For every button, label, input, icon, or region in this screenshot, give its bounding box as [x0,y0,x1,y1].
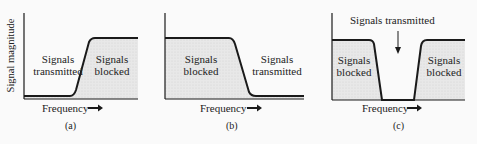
panel-b-frequency-arrow-icon [247,105,262,112]
panel-c-left-region-label: Signals blocked [334,54,374,78]
panel-b-caption: (b) [226,120,238,131]
panel-c-x-axis-label: Frequency [362,102,408,114]
panel-b-left-region-label: Signals blocked [180,53,222,77]
panel-a-x-axis-label: Frequency [42,102,88,114]
panel-c-caption: (c) [393,120,404,131]
panel-b-right-region-label: Signals transmitted [250,53,304,77]
panel-c-down-arrow-icon [395,47,401,54]
panel-a-right-region-label: Signals blocked [90,53,134,77]
panel-a-frequency-arrow-icon [88,105,103,112]
panel-b-x-axis-label: Frequency [200,102,246,114]
panel-a-left-region-label: Signals transmitted [28,53,88,77]
panel-c-frequency-arrow-icon [407,105,422,112]
panel-a-caption: (a) [65,120,76,131]
panel-c-transmitted-annotation: Signals transmitted [350,14,460,26]
panel-c-right-region-label: Signals blocked [424,54,464,78]
y-axis-label: Signal magnitude [5,16,16,96]
